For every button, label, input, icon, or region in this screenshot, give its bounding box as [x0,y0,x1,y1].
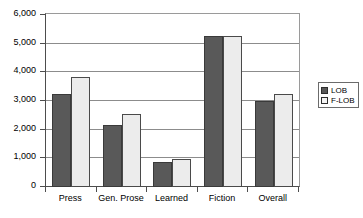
bar-group [147,14,198,187]
bar-lob [255,101,274,187]
x-axis-tick-label: Overall [247,193,298,204]
legend: LOB F-LOB [318,82,359,108]
bar-f-lob [274,94,293,187]
bar-lob [103,125,122,187]
y-axis-tick-label: 0 [31,181,36,190]
bar-f-lob [71,77,90,187]
bar-chart: 01,0002,0003,0004,0005,0006,000 PressGen… [0,0,363,218]
bar-group [97,14,148,187]
x-axis-tick-label: Learned [146,193,197,204]
x-axis-tick-label: Fiction [197,193,248,204]
legend-label-flob: F-LOB [331,96,355,105]
legend-swatch-lob-icon [321,87,328,94]
y-axis-tick-label: 2,000 [13,124,36,133]
y-axis-tick-mark [40,71,45,72]
legend-item-lob: LOB [321,85,355,95]
y-axis-tick-label: 1,000 [13,152,36,161]
bar-group [198,14,249,187]
x-axis-tick-label: Gen. Prose [96,193,147,204]
legend-swatch-flob-icon [321,97,328,104]
bar-group [248,14,299,187]
x-axis-tick-mark [96,187,97,192]
bar-f-lob [122,114,141,187]
x-axis-tick-mark [197,187,198,192]
y-axis-tick-mark [40,43,45,44]
x-axis-tick-label: Press [45,193,96,204]
legend-item-flob: F-LOB [321,95,355,105]
y-axis-tick-mark [40,100,45,101]
bar-f-lob [172,159,191,187]
x-axis-tick-mark [146,187,147,192]
y-axis-tick-label: 4,000 [13,66,36,75]
x-axis-labels: PressGen. ProseLearnedFictionOverall [45,193,301,211]
bar-lob [52,94,71,187]
y-axis-tick-label: 5,000 [13,38,36,47]
legend-label-lob: LOB [331,86,347,95]
x-axis-tick-mark [298,187,299,192]
bar-lob [204,36,223,187]
y-axis-tick-mark [40,157,45,158]
y-axis-tick-mark [40,14,45,15]
bar-f-lob [223,36,242,187]
bar-group [46,14,97,187]
y-axis-tick-label: 3,000 [13,95,36,104]
y-axis-tick-mark [40,129,45,130]
y-axis-tick-label: 6,000 [13,9,36,18]
y-axis-labels: 01,0002,0003,0004,0005,0006,000 [0,0,42,218]
x-axis-tick-mark [45,187,46,192]
bar-groups [46,14,299,187]
bar-lob [153,162,172,187]
x-axis-tick-mark [247,187,248,192]
